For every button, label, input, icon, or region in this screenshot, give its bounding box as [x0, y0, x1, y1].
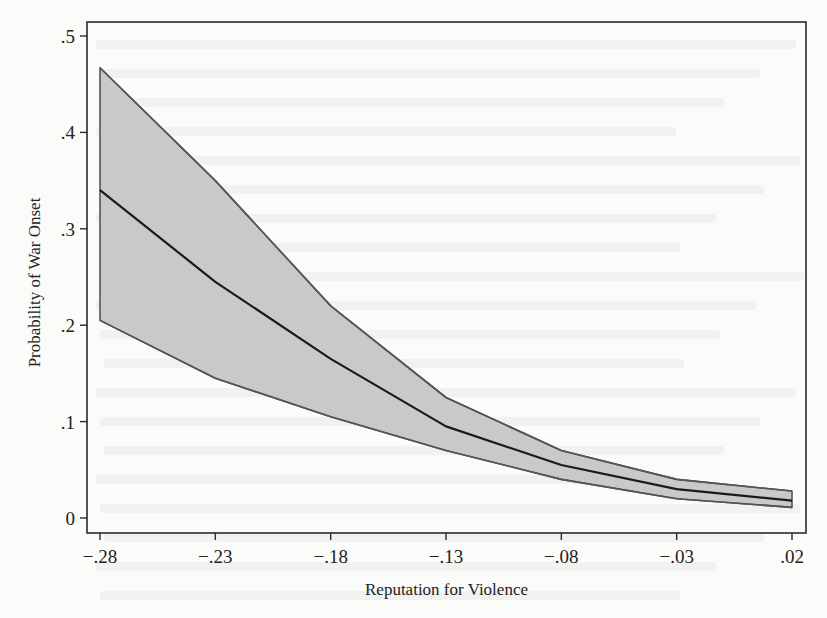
y-tick-label: .3 — [61, 219, 75, 240]
y-axis-title: Probability of War Onset — [25, 197, 44, 367]
x-tick-label: −.03 — [659, 546, 693, 567]
x-tick-label: −.08 — [544, 546, 578, 567]
x-tick-label: −.13 — [429, 546, 463, 567]
x-tick-label: .02 — [780, 546, 804, 567]
chart: 0.1.2.3.4.5 −.28−.23−.18−.13−.08−.03.02 … — [0, 0, 827, 618]
x-tick-label: −.28 — [83, 546, 117, 567]
y-tick-label: .5 — [61, 26, 75, 47]
y-tick-label: .1 — [61, 412, 75, 433]
y-tick-label: .4 — [61, 122, 76, 143]
x-tick-label: −.18 — [313, 546, 347, 567]
y-tick-label: .2 — [61, 315, 75, 336]
x-tick-label: −.23 — [198, 546, 232, 567]
x-axis-title: Reputation for Violence — [365, 580, 528, 599]
y-axis: 0.1.2.3.4.5 — [61, 26, 87, 529]
y-tick-label: 0 — [66, 508, 76, 529]
